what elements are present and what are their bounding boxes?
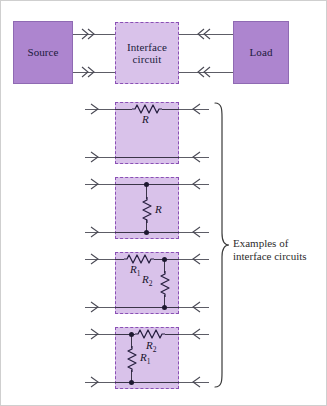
interface-circuit-label-line1: Interface [127,41,167,53]
load-block: Load [233,21,289,84]
chevron-left-icon [191,151,201,163]
junction-dot [129,380,134,385]
chevron-left-icon [191,178,201,190]
double-chevron-right-icon [81,28,97,40]
source-block: Source [13,21,73,84]
chevron-right-icon [90,226,100,238]
junction-dot [162,305,167,310]
load-block-label: Load [249,46,272,58]
junction-dot [144,182,149,187]
wire-example1-inner-bottom [115,157,179,158]
brace-caption: Examples of interface circuits [233,237,307,264]
double-chevron-left-icon [195,66,211,78]
chevron-left-icon [191,253,201,265]
junction-dot [129,332,134,337]
chevron-left-icon [191,226,201,238]
chevron-right-icon [90,301,100,313]
brace-caption-line2: interface circuits [233,250,307,263]
resistor-symbol-R2 [159,271,171,297]
double-chevron-left-icon [195,28,211,40]
wire-example4-inner-bottom [115,382,179,383]
interface-circuit-block: Interface circuit [115,22,179,84]
wire-example1-inner-top-right [162,109,179,110]
chevron-left-icon [191,376,201,388]
right-curly-brace-icon [213,101,231,389]
source-block-label: Source [27,46,58,58]
resistor-symbol-R1 [126,346,138,372]
brace-caption-line1: Examples of [233,237,307,250]
component-label-R: R [155,203,162,215]
chevron-right-icon [90,253,100,265]
wire-example4-inner-top-right [165,334,179,335]
junction-dot [162,257,167,262]
wire-example1-inner-top-left [115,109,132,110]
chevron-left-icon [191,328,201,340]
resistor-symbol-R [141,197,153,223]
chevron-right-icon [90,178,100,190]
chevron-right-icon [90,376,100,388]
wire-example3-inner-bottom [115,307,179,308]
figure-frame: Source Interface circuit Load [0,0,327,406]
double-chevron-right-icon [81,66,97,78]
component-label-R2: R2 [146,339,156,354]
chevron-right-icon [90,103,100,115]
interface-circuit-label-line2: circuit [133,53,162,65]
component-label-R1: R1 [130,263,140,278]
chevron-right-icon [90,328,100,340]
component-label-R2: R2 [142,273,152,288]
chevron-left-icon [191,103,201,115]
junction-dot [144,230,149,235]
wire-example3-inner-top-left [115,259,124,260]
chevron-right-icon [90,151,100,163]
component-label-R: R [142,113,149,125]
chevron-left-icon [191,301,201,313]
